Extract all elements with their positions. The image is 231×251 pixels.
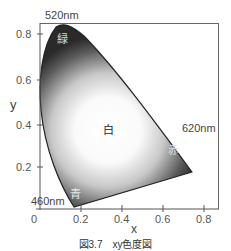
x-tick-0.2: 0.2 xyxy=(73,214,88,225)
wavelength-460nm: 460nm xyxy=(31,196,65,207)
wavelength-520nm: 520nm xyxy=(45,10,79,21)
x-tick-0.4: 0.4 xyxy=(114,214,129,225)
y-tick-0.8: 0.8 xyxy=(16,29,31,40)
spectral-locus xyxy=(40,25,192,207)
x-axis-label: x xyxy=(131,223,137,235)
region-blue: 青 xyxy=(70,189,81,200)
region-green: 緑 xyxy=(57,34,68,45)
region-white: 白 xyxy=(103,125,114,136)
x-tick-0.8: 0.8 xyxy=(196,214,211,225)
x-tick-0: 0 xyxy=(31,214,37,225)
wavelength-620nm: 620nm xyxy=(182,123,216,134)
figure-caption: 図3.7 xy色度図 xyxy=(0,236,231,251)
x-tick-0.6: 0.6 xyxy=(155,214,170,225)
y-tick-0.4: 0.4 xyxy=(16,120,31,131)
y-axis-label: y xyxy=(10,98,17,111)
y-tick-0.6: 0.6 xyxy=(16,75,31,86)
y-tick-0.2: 0.2 xyxy=(16,162,31,173)
region-red: 赤 xyxy=(168,145,179,156)
